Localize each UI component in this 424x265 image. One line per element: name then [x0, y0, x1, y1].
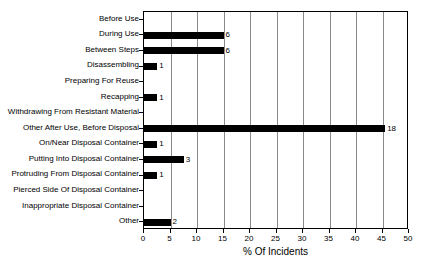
bar [144, 32, 224, 39]
y-axis-tick [139, 175, 143, 176]
y-axis-label-5: Preparing For Reuse [0, 73, 139, 89]
bar-row: 1 [144, 90, 407, 106]
y-axis-label-6: Recapping [0, 89, 139, 105]
x-axis-tick-label: 40 [351, 234, 360, 244]
bar [144, 156, 184, 163]
bar-value-label: 1 [157, 138, 163, 150]
y-axis-tick [139, 112, 143, 113]
bar-row: 6 [144, 43, 407, 59]
y-axis-label-3: Between Steps [0, 42, 139, 58]
y-axis-label-2: During Use [0, 27, 139, 43]
y-axis-tick [139, 159, 143, 160]
bar [144, 94, 157, 101]
bar-row: 3 [144, 152, 407, 168]
x-axis-tick-label: 25 [271, 234, 280, 244]
x-axis-tick-label: 30 [298, 234, 307, 244]
y-axis-label-text: Protruding From Disposal Container [11, 169, 139, 179]
x-axis-tick-label: 50 [404, 234, 413, 244]
y-axis-label-13: Inappropriate Disposal Container [0, 198, 139, 214]
x-axis-tick [196, 229, 197, 233]
x-axis-tick [249, 229, 250, 233]
x-axis-tick [170, 229, 171, 233]
bar-value-label: 2 [171, 216, 177, 228]
y-axis-label-7: Withdrawing From Resistant Material [0, 104, 139, 120]
x-axis-tick [408, 229, 409, 233]
bar-row [144, 12, 407, 28]
y-axis-label-12: Pierced Side Of Disposal Container [0, 182, 139, 198]
bar [144, 125, 385, 132]
y-axis-tick [139, 19, 143, 20]
y-axis-tick [139, 128, 143, 129]
y-axis-label-text: Other [119, 216, 139, 226]
y-axis-tick [139, 66, 143, 67]
bar-value-label: 1 [157, 169, 163, 181]
y-axis-label-1: Before Use [0, 11, 139, 27]
x-axis-tick [329, 229, 330, 233]
incidents-bar-chart: Before UseDuring UseBetween StepsDisasse… [0, 0, 424, 265]
bar-row: 1 [144, 59, 407, 75]
x-axis-tick-label: 0 [141, 234, 145, 244]
y-axis-label-text: Between Steps [85, 45, 139, 55]
bar-value-label: 18 [385, 123, 396, 135]
bar-rows: 6611181312 [144, 12, 407, 228]
y-axis-label-text: Disassembling [87, 60, 139, 70]
bar-row: 2 [144, 214, 407, 230]
bar-value-label: 1 [157, 92, 163, 104]
y-axis-label-text: Inappropriate Disposal Container [22, 201, 139, 211]
bar-row [144, 199, 407, 215]
x-axis-tick-label: 10 [192, 234, 201, 244]
x-axis-title: % Of Incidents [143, 245, 408, 258]
y-axis-label-text: Before Use [99, 14, 139, 24]
y-axis-label-8: Other After Use, Before Disposal [0, 120, 139, 136]
y-axis-label-4: Disassembling [0, 58, 139, 74]
bar-row [144, 74, 407, 90]
bar-row: 18 [144, 121, 407, 137]
bar-value-label: 3 [184, 154, 190, 166]
x-axis-tick-label: 35 [324, 234, 333, 244]
y-axis-tick [139, 190, 143, 191]
bar-row: 6 [144, 28, 407, 44]
y-axis-label-text: Withdrawing From Resistant Material [8, 107, 139, 117]
bar-row [144, 183, 407, 199]
bar [144, 47, 224, 54]
y-axis-label-text: Pierced Side Of Disposal Container [13, 185, 139, 195]
x-axis-tick [276, 229, 277, 233]
x-axis-tick-label: 20 [245, 234, 254, 244]
bar-row: 1 [144, 137, 407, 153]
y-axis-label-text: Preparing For Reuse [65, 76, 139, 86]
x-axis-tick [223, 229, 224, 233]
x-axis-tick [382, 229, 383, 233]
y-axis-tick [139, 206, 143, 207]
y-axis-tick [139, 143, 143, 144]
bar-value-label: 6 [224, 29, 230, 41]
x-axis-tick-label: 45 [377, 234, 386, 244]
y-axis-label-text: Recapping [101, 92, 139, 102]
x-axis-tick [302, 229, 303, 233]
y-axis-tick [139, 34, 143, 35]
x-axis-tick-label: 15 [218, 234, 227, 244]
y-axis-tick [139, 50, 143, 51]
y-axis-label-text: Other After Use, Before Disposal [23, 123, 139, 133]
bar-value-label: 6 [224, 45, 230, 57]
y-axis-tick [139, 81, 143, 82]
bar [144, 219, 171, 226]
y-axis-label-14: Other [0, 213, 139, 229]
x-axis-tick [355, 229, 356, 233]
plot-area: 6611181312 [143, 11, 408, 229]
y-axis-label-10: Putting Into Disposal Container [0, 151, 139, 167]
bar [144, 141, 157, 148]
y-axis-label-11: Protruding From Disposal Container [0, 167, 139, 183]
y-axis-label-text: During Use [99, 29, 139, 39]
bar [144, 63, 157, 70]
x-axis-tick [143, 229, 144, 233]
y-axis-label-text: Putting Into Disposal Container [29, 154, 139, 164]
y-axis-labels: Before UseDuring UseBetween StepsDisasse… [0, 11, 139, 229]
y-axis-label-text: On/Near Disposal Container [39, 138, 139, 148]
bar-row: 1 [144, 168, 407, 184]
y-axis-tick [139, 221, 143, 222]
x-axis-tick-label: 5 [167, 234, 171, 244]
bar-row [144, 105, 407, 121]
bar-value-label: 1 [157, 60, 163, 72]
y-axis-label-9: On/Near Disposal Container [0, 136, 139, 152]
bar [144, 172, 157, 179]
